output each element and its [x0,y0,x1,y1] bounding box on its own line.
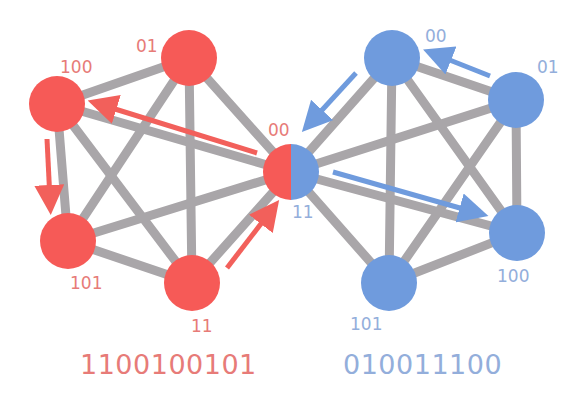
node-red-11[interactable] [164,255,220,311]
label-center-blue-11: 11 [292,202,314,222]
blue-sequence-label: 010011100 [343,349,502,380]
label-center-red-00: 00 [268,120,290,140]
arrow-icon [47,139,50,200]
label-red-01: 01 [136,36,158,56]
label-blue-01: 01 [537,57,559,77]
node-blue-101[interactable] [361,255,417,311]
label-red-100: 100 [60,57,92,77]
edge [189,58,192,283]
label-blue-00: 00 [425,26,447,46]
label-blue-100: 100 [497,266,529,286]
label-red-11: 11 [191,316,213,336]
node-blue-00[interactable] [364,30,420,86]
edge [389,58,392,283]
graph-diagram: 100 01 101 11 00 00 01 100 101 11 110010… [0,0,583,397]
node-shared-center[interactable] [263,144,319,200]
node-red-100[interactable] [29,76,85,132]
red-sequence-label: 1100100101 [80,349,257,380]
label-blue-101: 101 [350,314,382,334]
node-red-101[interactable] [40,213,96,269]
arrow-icon [312,73,356,121]
blue-graph-edges [291,58,517,283]
node-blue-01[interactable] [488,72,544,128]
node-red-01[interactable] [161,30,217,86]
node-blue-100[interactable] [489,205,545,261]
label-red-101: 101 [70,273,102,293]
